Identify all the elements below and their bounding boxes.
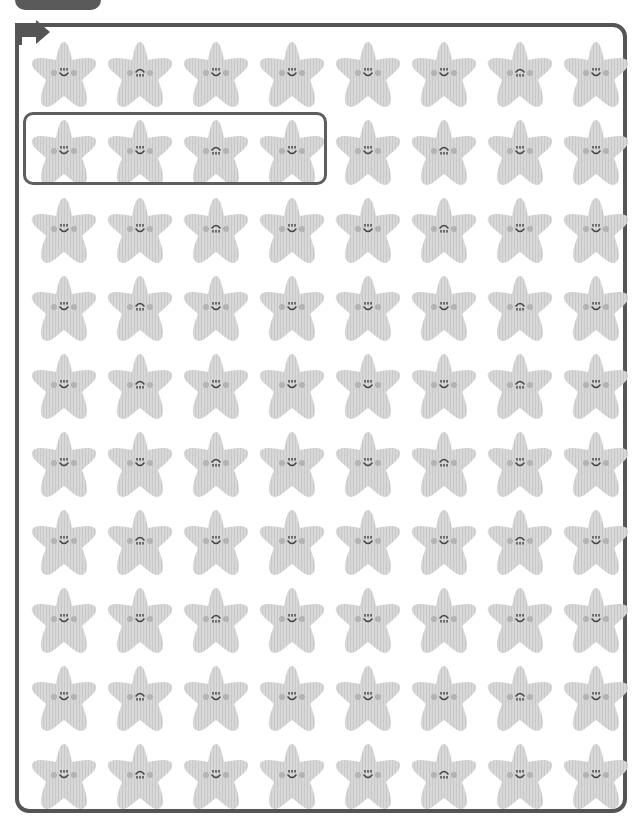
starfish-icon [104, 740, 176, 812]
starfish-icon [484, 662, 556, 734]
star-smile-face [330, 348, 406, 426]
starfish-icon [484, 506, 556, 578]
starfish-icon [484, 740, 556, 812]
starfish-icon [104, 428, 176, 500]
starfish-icon [28, 272, 100, 344]
star-smile-face [482, 582, 558, 660]
star-smile-face [254, 738, 330, 816]
star-smile-face [102, 582, 178, 660]
starfish-icon [560, 506, 632, 578]
star-smile-face [330, 270, 406, 348]
star-smile-face [178, 348, 254, 426]
starfish-icon [28, 350, 100, 422]
star-smile-face [330, 660, 406, 738]
star-smile-face [330, 36, 406, 114]
starfish-icon [180, 272, 252, 344]
starfish-icon [560, 584, 632, 656]
starfish-icon [180, 350, 252, 422]
star-smile-face [330, 192, 406, 270]
star-inverted-face [102, 36, 178, 114]
starfish-icon [256, 194, 328, 266]
starfish-icon [484, 428, 556, 500]
star-inverted-face [482, 660, 558, 738]
example-highlight-box [23, 112, 327, 185]
starfish-icon [408, 116, 480, 188]
starfish-icon [28, 506, 100, 578]
star-smile-face [406, 36, 482, 114]
starfish-icon [408, 662, 480, 734]
starfish-icon [180, 38, 252, 110]
star-inverted-face [102, 660, 178, 738]
starfish-icon [180, 428, 252, 500]
starfish-icon [28, 740, 100, 812]
star-smile-face [254, 36, 330, 114]
starfish-icon [484, 272, 556, 344]
starfish-icon [332, 662, 404, 734]
starfish-icon [332, 506, 404, 578]
star-smile-face [558, 348, 634, 426]
starfish-icon [560, 428, 632, 500]
starfish-icon [408, 428, 480, 500]
starfish-icon [256, 584, 328, 656]
star-inverted-face [102, 270, 178, 348]
starfish-icon [408, 740, 480, 812]
star-smile-face [26, 660, 102, 738]
star-smile-face [482, 426, 558, 504]
star-smile-face [406, 504, 482, 582]
starfish-icon [484, 194, 556, 266]
starfish-icon [408, 272, 480, 344]
star-smile-face [482, 738, 558, 816]
starfish-icon [332, 116, 404, 188]
star-smile-face [558, 660, 634, 738]
starfish-icon [180, 506, 252, 578]
star-smile-face [26, 504, 102, 582]
star-smile-face [558, 738, 634, 816]
starfish-icon [332, 740, 404, 812]
starfish-icon [332, 272, 404, 344]
star-inverted-face [406, 738, 482, 816]
worksheet-title-tab [15, 0, 101, 10]
star-smile-face [558, 582, 634, 660]
star-smile-face [26, 582, 102, 660]
starfish-icon [256, 506, 328, 578]
starfish-icon [104, 272, 176, 344]
star-smile-face [254, 426, 330, 504]
star-smile-face [558, 36, 634, 114]
starfish-icon [256, 428, 328, 500]
starfish-icon [484, 350, 556, 422]
starfish-icon [484, 584, 556, 656]
starfish-icon [484, 116, 556, 188]
star-smile-face [482, 192, 558, 270]
starfish-icon [256, 272, 328, 344]
star-smile-face [178, 36, 254, 114]
star-inverted-face [482, 348, 558, 426]
starfish-icon [408, 584, 480, 656]
star-smile-face [254, 192, 330, 270]
star-smile-face [330, 114, 406, 192]
starfish-icon [104, 194, 176, 266]
starfish-icon [28, 194, 100, 266]
starfish-icon [560, 272, 632, 344]
starfish-icon [560, 350, 632, 422]
starfish-icon [332, 350, 404, 422]
starfish-icon [408, 506, 480, 578]
starfish-icon [408, 194, 480, 266]
star-smile-face [178, 738, 254, 816]
star-smile-face [26, 192, 102, 270]
starfish-icon [484, 38, 556, 110]
star-smile-face [178, 270, 254, 348]
star-inverted-face [406, 426, 482, 504]
starfish-icon [332, 428, 404, 500]
starfish-icon [408, 350, 480, 422]
star-smile-face [178, 660, 254, 738]
star-inverted-face [406, 114, 482, 192]
star-smile-face [26, 270, 102, 348]
starfish-icon [560, 38, 632, 110]
starfish-icon [560, 662, 632, 734]
starfish-icon [28, 428, 100, 500]
star-smile-face [26, 36, 102, 114]
starfish-icon [28, 584, 100, 656]
starfish-icon [104, 584, 176, 656]
starfish-icon [104, 350, 176, 422]
starfish-icon [560, 116, 632, 188]
